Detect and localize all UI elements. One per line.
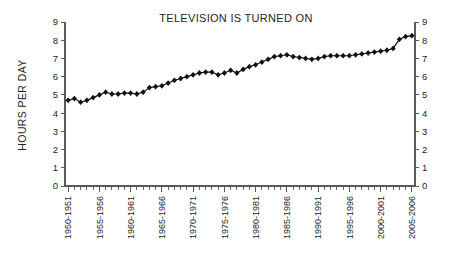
data-point-marker	[209, 69, 214, 75]
x-tick-label: 1980-1981	[251, 196, 261, 239]
data-point-marker	[234, 70, 239, 76]
y-tick-label-right: 5	[422, 89, 427, 100]
data-point-marker	[228, 67, 233, 73]
right-axis-ticks: 0123456789	[415, 16, 427, 191]
y-tick-label: 1	[53, 162, 58, 173]
data-point-marker	[297, 55, 302, 61]
data-point-marker	[103, 89, 108, 95]
y-tick-label: 4	[53, 108, 58, 119]
data-point-marker	[284, 52, 289, 58]
data-point-marker	[403, 34, 408, 40]
data-point-marker	[366, 50, 371, 56]
data-point-marker	[241, 66, 246, 72]
series-line-television-hours	[68, 36, 412, 103]
x-tick-label: 1970-1971	[188, 196, 198, 239]
data-point-marker	[378, 48, 383, 54]
data-point-marker	[197, 70, 202, 76]
data-point-marker	[66, 97, 71, 103]
data-point-marker	[372, 49, 377, 55]
chart-title: TELEVISION IS TURNED ON	[159, 12, 312, 24]
data-point-marker	[116, 91, 121, 97]
data-point-marker	[384, 47, 389, 53]
chart-figure: TELEVISION IS TURNED ON HOURS PER DAY 01…	[0, 0, 458, 258]
y-tick-label: 0	[53, 180, 58, 191]
data-point-marker	[178, 76, 183, 82]
x-tick-label: 1965-1966	[157, 196, 167, 239]
data-point-marker	[253, 62, 258, 68]
y-axis-label: HOURS PER DAY	[16, 59, 28, 150]
y-tick-label: 8	[53, 35, 58, 46]
y-tick-label-right: 0	[422, 180, 427, 191]
y-tick-label-right: 1	[422, 162, 427, 173]
data-point-marker	[159, 83, 164, 89]
data-point-marker	[353, 52, 358, 58]
data-point-marker	[341, 53, 346, 59]
y-tick-label: 6	[53, 71, 58, 82]
y-tick-label: 7	[53, 53, 58, 64]
y-tick-label: 3	[53, 126, 58, 137]
data-point-marker	[109, 91, 114, 97]
x-axis-tick-labels: 1950-19511955-19561960-19611965-19661970…	[63, 196, 417, 239]
data-point-marker	[84, 97, 89, 103]
y-tick-label-right: 8	[422, 35, 427, 46]
data-point-marker	[322, 54, 327, 60]
data-point-marker	[128, 90, 133, 96]
x-tick-label: 1985-1986	[282, 196, 292, 239]
data-point-marker	[309, 56, 314, 62]
television-hours-line-chart: TELEVISION IS TURNED ON HOURS PER DAY 01…	[0, 0, 458, 258]
x-tick-label: 2005-2006	[407, 196, 417, 239]
y-tick-label-right: 2	[422, 144, 427, 155]
data-point-marker	[122, 90, 127, 96]
data-point-marker	[166, 80, 171, 86]
data-point-marker	[153, 84, 158, 90]
y-tick-label-right: 3	[422, 126, 427, 137]
y-tick-label: 9	[53, 16, 58, 27]
data-point-marker	[334, 53, 339, 59]
y-tick-label-right: 9	[422, 16, 427, 27]
data-point-marker	[328, 53, 333, 59]
y-tick-label: 5	[53, 89, 58, 100]
x-tick-label: 2000-2001	[376, 196, 386, 239]
y-tick-label-right: 6	[422, 71, 427, 82]
x-tick-label: 1990-1991	[313, 196, 323, 239]
data-point-marker	[216, 72, 221, 78]
data-point-marker	[359, 51, 364, 57]
data-point-marker	[291, 54, 296, 60]
data-point-marker	[134, 91, 139, 97]
x-tick-label: 1975-1976	[220, 196, 230, 239]
left-axis-ticks: 0123456789	[53, 16, 65, 191]
data-point-marker	[316, 56, 321, 62]
data-point-marker	[409, 33, 414, 39]
data-point-marker	[91, 95, 96, 101]
x-axis-ticks	[68, 186, 412, 192]
y-tick-label-right: 7	[422, 53, 427, 64]
data-point-marker	[72, 96, 77, 102]
data-point-marker	[203, 69, 208, 75]
data-point-marker	[78, 99, 83, 105]
data-point-marker	[247, 64, 252, 70]
data-point-marker	[172, 77, 177, 83]
data-point-marker	[303, 56, 308, 62]
data-point-marker	[97, 92, 102, 98]
data-point-marker	[278, 53, 283, 59]
data-point-marker	[266, 56, 271, 62]
data-point-marker	[259, 59, 264, 65]
data-point-marker	[191, 72, 196, 78]
x-tick-label: 1960-1961	[126, 196, 136, 239]
data-point-marker	[272, 54, 277, 60]
data-point-marker	[347, 53, 352, 59]
x-tick-label: 1950-1951	[63, 196, 73, 239]
y-tick-label-right: 4	[422, 108, 427, 119]
y-tick-label: 2	[53, 144, 58, 155]
x-tick-label: 1955-1956	[95, 196, 105, 239]
data-point-marker	[222, 70, 227, 76]
series-markers	[66, 33, 415, 105]
data-point-marker	[184, 74, 189, 80]
x-tick-label: 1995-1996	[345, 196, 355, 239]
